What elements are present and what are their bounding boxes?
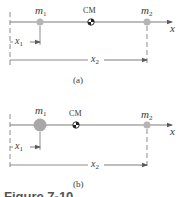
mass-1-label: m1 bbox=[35, 5, 46, 18]
mass-1-label: m1 bbox=[35, 105, 46, 118]
cm-icon bbox=[73, 122, 79, 128]
x-axis-label: x bbox=[170, 23, 175, 34]
cm-label: CM bbox=[69, 110, 82, 118]
figure-caption: Figure 7-10 bbox=[4, 190, 73, 197]
x-axis-label: x bbox=[170, 126, 175, 137]
cm-icon bbox=[88, 19, 94, 25]
x2-distance-label: x2 bbox=[91, 159, 99, 171]
x1-distance-label: x1 bbox=[15, 141, 23, 153]
mass-2-label: m2 bbox=[141, 5, 152, 18]
panel-a-label: (a) bbox=[73, 76, 83, 85]
mass-2-label: m2 bbox=[141, 109, 152, 122]
mass-2-particle bbox=[144, 122, 151, 129]
mass-1-particle bbox=[34, 119, 47, 132]
cm-label: CM bbox=[83, 7, 96, 15]
x2-distance-label: x2 bbox=[91, 54, 99, 66]
mass-2-particle bbox=[144, 19, 151, 26]
mass-1-particle bbox=[37, 19, 44, 26]
panel-b-label: (b) bbox=[73, 180, 84, 189]
x1-distance-label: x1 bbox=[15, 36, 23, 48]
